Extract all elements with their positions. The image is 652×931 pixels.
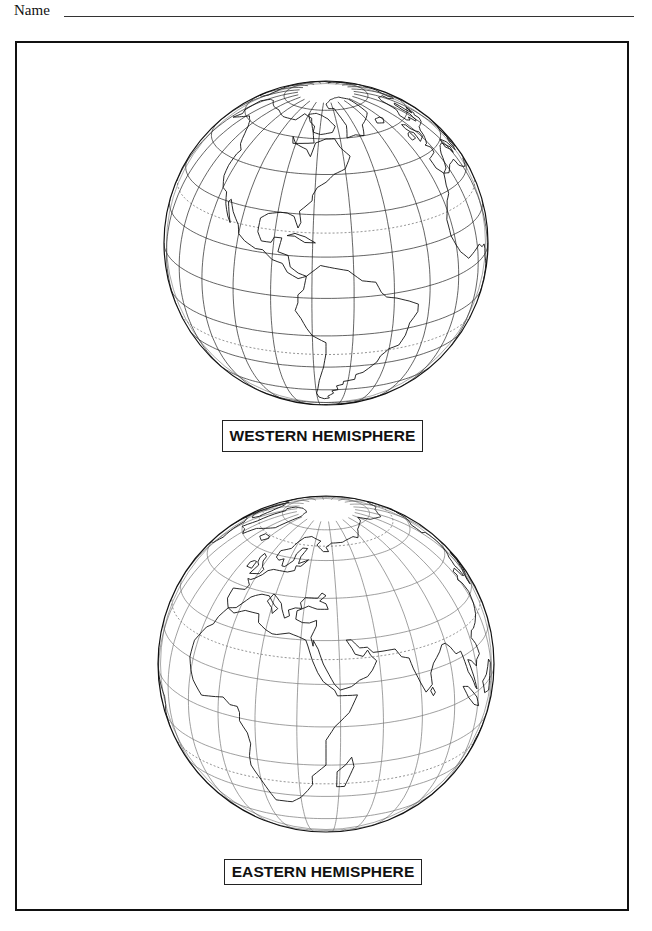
borneo-outline (483, 659, 491, 693)
ireland-outline (247, 561, 257, 569)
parallel-line (170, 200, 483, 257)
madagascar-outline (337, 757, 354, 787)
western-hemisphere-globe (164, 81, 488, 405)
iceland-outline (375, 117, 384, 123)
eastern-hemisphere-label: EASTERN HEMISPHERE (224, 859, 422, 885)
cuba-outline (287, 233, 315, 243)
iceland-outline (260, 534, 270, 541)
western-globe-content (164, 81, 488, 405)
tropic-line (177, 175, 474, 233)
parallel-line (268, 822, 385, 831)
greenland-outline (242, 507, 306, 534)
sri-lanka-outline (431, 687, 436, 696)
indonesia-sumatra-outline (463, 686, 479, 705)
eastern-globe-content (158, 496, 494, 832)
eastern-hemisphere-globe (158, 496, 494, 832)
globes-canvas (0, 0, 652, 931)
south-america-outline (295, 266, 418, 399)
africa-outline (444, 157, 486, 298)
western-hemisphere-label: WESTERN HEMISPHERE (222, 420, 423, 452)
australia-outline (465, 721, 484, 759)
